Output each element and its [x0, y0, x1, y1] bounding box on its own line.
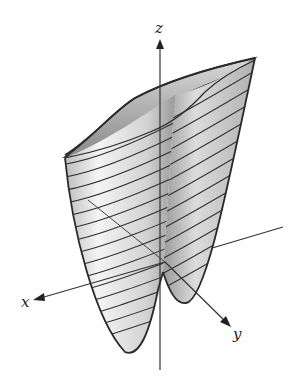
- z-arrowhead-icon: [156, 39, 164, 49]
- surface-left-lobe: [65, 95, 175, 353]
- x-arrowhead-icon: [33, 293, 45, 301]
- z-axis-label: z: [154, 19, 163, 37]
- x-axis-label: x: [21, 293, 30, 311]
- surface-diagram: z x y: [0, 0, 295, 386]
- y-axis-label: y: [232, 325, 242, 343]
